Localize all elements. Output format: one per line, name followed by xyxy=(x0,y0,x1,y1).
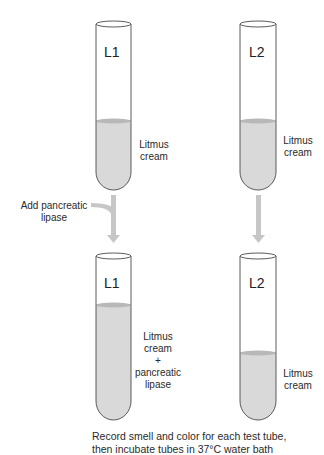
contents-line: + xyxy=(133,355,183,367)
contents-line: Litmus xyxy=(133,331,183,343)
tube-label-top-l1: L1 xyxy=(104,44,120,60)
contents-label-bottom-l1: Litmus cream + pancreatic lipase xyxy=(133,331,183,391)
contents-line: Litmus xyxy=(280,368,316,380)
contents-line: pancreatic xyxy=(133,367,183,379)
contents-line: cream xyxy=(280,380,316,392)
add-lipase-label: Add pancreatic lipase xyxy=(16,200,92,224)
tube-label-bottom-l2: L2 xyxy=(249,275,265,291)
contents-label-top-l2: Litmus cream xyxy=(280,135,316,159)
arrow-add-lipase xyxy=(91,195,120,243)
tube-label-bottom-l1: L1 xyxy=(104,275,120,291)
contents-label-bottom-l2: Litmus cream xyxy=(280,368,316,392)
contents-line: cream xyxy=(136,151,172,163)
contents-line: lipase xyxy=(133,379,183,391)
contents-label-top-l1: Litmus cream xyxy=(136,139,172,163)
label-line: Add pancreatic xyxy=(16,200,92,212)
caption-line-1: Record smell and color for each test tub… xyxy=(92,430,286,443)
arrow-right xyxy=(252,195,265,243)
instruction-caption: Record smell and color for each test tub… xyxy=(92,430,286,455)
tube-label-top-l2: L2 xyxy=(249,44,265,60)
contents-line: Litmus xyxy=(136,139,172,151)
caption-line-2: then incubate tubes in 37°C water bath xyxy=(92,443,286,455)
contents-line: Litmus xyxy=(280,135,316,147)
contents-line: cream xyxy=(280,147,316,159)
label-line: lipase xyxy=(16,212,92,224)
contents-line: cream xyxy=(133,343,183,355)
